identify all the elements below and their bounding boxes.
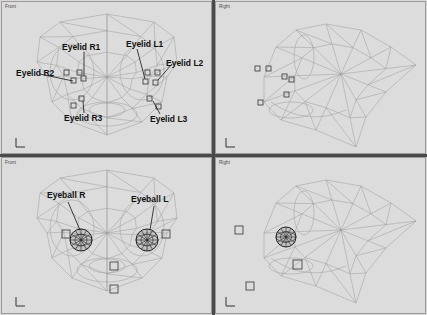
mesh-edge (302, 58, 341, 74)
control-box[interactable] (145, 70, 150, 75)
mesh-edge (341, 48, 353, 74)
mesh-edge (341, 74, 368, 85)
mesh-edge (40, 37, 59, 47)
control-box[interactable] (293, 260, 302, 269)
mesh-edge (107, 233, 132, 235)
label-eyelid-r3: Eyelid R3 (64, 113, 102, 123)
label-eyelid-l3: Eyelid L3 (150, 114, 187, 124)
mesh-edge (107, 233, 130, 245)
mesh-loop (269, 102, 313, 118)
mesh-edge (37, 47, 59, 62)
mesh-edge (368, 241, 386, 248)
mesh-edge (353, 30, 361, 48)
viewport-divider-horizontal[interactable] (0, 154, 427, 157)
mesh-loop (295, 44, 386, 118)
leader-line (83, 101, 84, 113)
mesh-edge (326, 24, 332, 44)
mesh-edge (356, 100, 366, 117)
viewport-right-bottom[interactable]: Right (215, 157, 426, 314)
mesh-edge (107, 212, 127, 233)
leader-line (150, 206, 154, 230)
control-box[interactable] (289, 77, 294, 82)
mesh-edge (130, 89, 147, 94)
viewport-front-top[interactable]: Front Eyelid R1 Eyelid R2 Eyelid R3 Eyel… (1, 1, 212, 154)
mesh-edge (356, 248, 386, 256)
mesh-edge (47, 232, 64, 233)
viewport-divider-vertical[interactable] (212, 0, 215, 315)
mesh-edge (107, 170, 141, 193)
mesh-edge (107, 274, 142, 278)
mesh-edge (295, 230, 341, 247)
mesh-edge (316, 264, 326, 286)
eyeball-sphere (276, 227, 296, 247)
viewport-right-top[interactable]: Right (215, 1, 426, 154)
mesh-edge (82, 265, 107, 291)
control-box[interactable] (64, 70, 69, 75)
label-eyelid-l1: Eyelid L1 (126, 39, 163, 49)
axis-tripod-icon (224, 137, 238, 149)
mesh-edge (296, 30, 314, 48)
mesh-edge (107, 118, 142, 122)
mesh-edge (57, 221, 78, 228)
control-box[interactable] (110, 262, 118, 270)
control-box[interactable] (143, 79, 148, 84)
mesh-edge (82, 77, 107, 79)
mesh-edge (67, 89, 84, 94)
control-box[interactable] (235, 226, 243, 234)
mesh-edge (316, 108, 326, 130)
mesh-edge (361, 30, 371, 58)
mesh-edge (37, 203, 59, 218)
mesh-loop (294, 35, 314, 79)
mesh-edge (107, 77, 130, 89)
leader-line (137, 49, 145, 79)
mesh-edge (87, 212, 107, 233)
mesh-edge (341, 230, 368, 241)
mesh-loop (295, 200, 386, 274)
mesh-edge (386, 47, 391, 69)
mesh-edge (107, 14, 141, 37)
mesh-edge (47, 221, 57, 233)
mesh-edge (132, 258, 162, 265)
leader-line (153, 101, 160, 114)
mesh-edge (136, 221, 157, 228)
control-box[interactable] (71, 103, 76, 108)
mesh-edge (326, 230, 341, 264)
label-eyelid-l2: Eyelid L2 (166, 58, 203, 68)
control-box[interactable] (246, 282, 254, 290)
mesh-loop (269, 258, 313, 274)
control-box[interactable] (258, 100, 263, 105)
control-box[interactable] (153, 80, 158, 85)
mesh-edge (296, 186, 332, 200)
mesh-edge (295, 230, 341, 232)
mesh-edge (341, 225, 386, 230)
mesh-edge (92, 233, 107, 254)
mesh-edge (341, 230, 356, 256)
mesh-edge (141, 178, 154, 193)
axis-tripod-icon (14, 296, 28, 308)
mesh-edge (326, 74, 341, 108)
head-outline (264, 24, 416, 147)
mesh-edge (341, 204, 353, 230)
side-head-wireframe (216, 158, 426, 314)
viewport-front-bottom[interactable]: Front Eyeball R Eyeball L (1, 157, 212, 314)
mesh-edge (326, 180, 332, 200)
mesh-edge (371, 47, 391, 58)
axis-tripod-icon (224, 296, 238, 308)
mesh-edge (295, 74, 341, 91)
mesh-edge (341, 74, 356, 100)
mesh-edge (353, 186, 361, 204)
axis-tripod-icon (14, 137, 28, 149)
mesh-edge (341, 214, 371, 230)
mesh-edge (264, 76, 295, 102)
mesh-edge (141, 22, 154, 37)
mesh-edge (84, 77, 107, 89)
mesh-edge (92, 77, 107, 98)
mesh-edge (341, 69, 386, 74)
control-box[interactable] (255, 66, 260, 71)
label-eyelid-r1: Eyelid R1 (62, 42, 100, 52)
control-box[interactable] (110, 285, 118, 293)
mesh-edge (276, 203, 302, 214)
label-eyeball-r: Eyeball R (47, 190, 85, 200)
mesh-edge (296, 186, 314, 204)
mesh-edge (37, 62, 57, 65)
